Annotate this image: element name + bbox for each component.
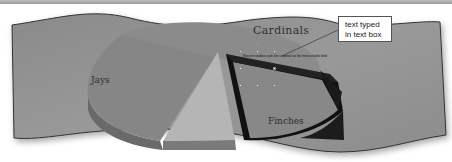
- label-jays: Jays: [91, 75, 110, 85]
- resize-handle-tc[interactable]: [256, 50, 259, 53]
- resize-handle-tl[interactable]: [239, 50, 242, 53]
- callout-line-2: in text box: [345, 30, 391, 40]
- rotation-handle[interactable]: [256, 42, 259, 45]
- text-box[interactable]: Recent studies rank the cardinal as the …: [243, 54, 327, 58]
- resize-handle-br[interactable]: [273, 84, 276, 87]
- callout-box: text typed in text box: [338, 16, 392, 42]
- resize-handle-bc[interactable]: [256, 84, 259, 87]
- resize-handle-tr[interactable]: [273, 50, 276, 53]
- callout-line-1: text typed: [345, 20, 391, 30]
- label-finches: Finches: [268, 116, 304, 126]
- resize-handle-mr[interactable]: [273, 67, 276, 70]
- label-cardinals: Cardinals: [253, 24, 309, 37]
- resize-handle-ml[interactable]: [239, 67, 242, 70]
- resize-handle-bl[interactable]: [239, 84, 242, 87]
